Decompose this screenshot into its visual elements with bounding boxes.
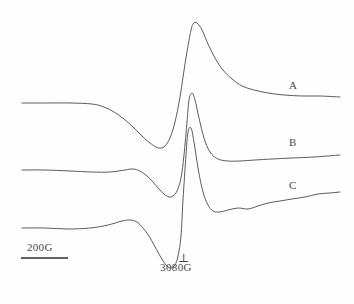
epr-spectra-figure: A B C 200G ⊥ 3080G <box>0 0 354 304</box>
scale-bar-label: 200G <box>27 242 53 253</box>
trace-label-a: A <box>289 80 297 91</box>
trace-label-b: B <box>289 137 297 148</box>
trace-label-c: C <box>289 180 297 191</box>
spectra-plot-area <box>0 0 354 304</box>
spectrum-trace-c <box>22 127 340 268</box>
field-marker-label: 3080G <box>160 262 192 273</box>
